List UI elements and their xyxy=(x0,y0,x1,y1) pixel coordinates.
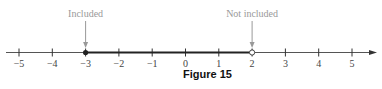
tick-label: 2 xyxy=(250,58,255,69)
tick-label: −1 xyxy=(147,58,158,69)
tick-label: 0 xyxy=(183,58,188,69)
tick-label: −4 xyxy=(47,58,58,69)
number-line-figure: −5−4−3−2−1012345 IncludedNot included Fi… xyxy=(0,0,382,89)
annotation-label: Not included xyxy=(226,8,278,19)
tick-label: 5 xyxy=(350,58,355,69)
tick-label: −2 xyxy=(114,58,125,69)
tick-label: −5 xyxy=(14,58,25,69)
arrow-right-icon xyxy=(369,50,377,55)
tick-label: 4 xyxy=(316,58,321,69)
tick-label: −3 xyxy=(80,58,91,69)
annotation-group: IncludedNot included xyxy=(68,8,278,48)
arrow-down-icon xyxy=(83,42,88,48)
arrow-down-icon xyxy=(250,42,255,48)
tick-label: 1 xyxy=(216,58,221,69)
closed-endpoint-icon xyxy=(83,50,88,55)
open-endpoint-icon xyxy=(250,50,255,55)
figure-caption: Figure 15 xyxy=(183,68,232,80)
annotation-label: Included xyxy=(68,8,103,19)
tick-label: 3 xyxy=(283,58,288,69)
